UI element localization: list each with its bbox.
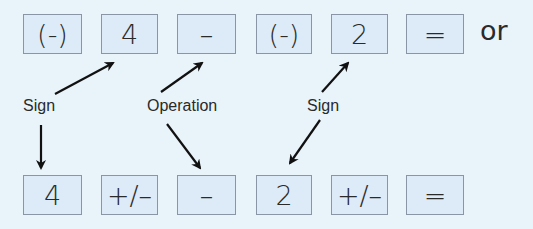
arrow-operation-to-bottom-minus xyxy=(167,124,200,168)
arrow-sign-to-top-4 xyxy=(55,63,113,94)
arrow-sign-to-bottom-2 xyxy=(290,120,320,163)
arrows-layer xyxy=(0,0,533,229)
arrow-sign-to-top-2 xyxy=(322,63,348,92)
arrow-operation-to-top-minus xyxy=(161,63,202,92)
